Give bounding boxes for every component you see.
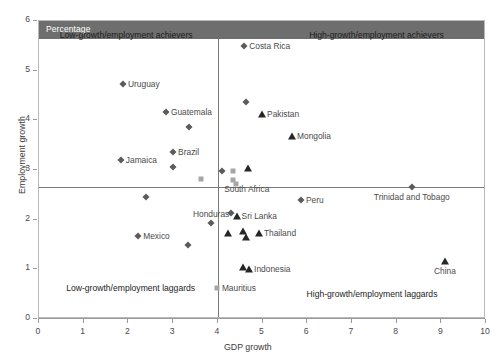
x-tick-mark (262, 319, 263, 323)
data-point-marker (162, 109, 169, 116)
data-point-marker (242, 234, 250, 241)
data-point-marker (241, 43, 248, 50)
x-tick-mark (440, 319, 441, 323)
data-point-marker (170, 148, 177, 155)
data-point-marker (258, 110, 266, 117)
x-tick-label: 8 (376, 326, 416, 336)
data-point-marker (244, 165, 252, 172)
data-point-marker (135, 232, 142, 239)
x-tick-label: 2 (107, 326, 147, 336)
x-tick-label: 0 (18, 326, 58, 336)
x-axis-title: GDP growth (224, 342, 272, 352)
y-tick-mark (33, 20, 37, 21)
data-point-marker (184, 241, 191, 248)
x-tick-label: 7 (331, 326, 371, 336)
data-point-label: Costa Rica (249, 41, 290, 51)
y-tick-mark (33, 169, 37, 170)
x-tick-label: 10 (465, 326, 504, 336)
quadrant-label-0: Low-growth/employment achievers (60, 30, 193, 40)
x-tick-mark (127, 319, 128, 323)
x-tick-label: 3 (152, 326, 192, 336)
data-point-marker (224, 230, 232, 237)
x-tick-label: 6 (286, 326, 326, 336)
data-point-marker (245, 266, 253, 273)
y-tick-label: 5 (10, 64, 30, 74)
x-tick-mark (83, 319, 84, 323)
data-point-label: Peru (306, 195, 324, 205)
data-point-marker (242, 99, 249, 106)
data-point-label: Honduras (193, 209, 229, 219)
data-point-label: Trinidad and Tobago (374, 192, 450, 202)
y-tick-label: 6 (10, 14, 30, 24)
y-tick-mark (33, 219, 37, 220)
data-point-marker (119, 80, 126, 87)
y-tick-mark (33, 119, 37, 120)
scatter-chart: Percentage Low-growth/employment achieve… (0, 0, 504, 360)
data-point-label: Pakistan (267, 109, 299, 119)
data-point-label: Mongolia (297, 131, 331, 141)
x-tick-label: 1 (63, 326, 103, 336)
x-tick-label: 4 (197, 326, 237, 336)
data-point-marker (170, 163, 177, 170)
x-tick-mark (351, 319, 352, 323)
y-tick-mark (33, 318, 37, 319)
data-point-label: China (434, 266, 456, 276)
x-tick-mark (217, 319, 218, 323)
data-point-label: Brazil (178, 147, 199, 157)
data-point-marker (288, 133, 296, 140)
data-point-label: Thailand (264, 228, 296, 238)
x-tick-mark (306, 319, 307, 323)
data-point-marker (255, 230, 263, 237)
y-tick-mark (33, 70, 37, 71)
x-tick-mark (38, 319, 39, 323)
plot-area: Percentage Low-growth/employment achieve… (38, 20, 485, 318)
data-point-label: South Africa (224, 184, 269, 194)
data-point-label: Mexico (143, 231, 170, 241)
y-tick-label: 0 (10, 312, 30, 322)
data-point-label: Sri Lanka (242, 211, 277, 221)
data-point-marker (408, 184, 415, 191)
data-point-marker (219, 168, 226, 175)
vertical-reference-line (218, 39, 219, 317)
data-point-marker (186, 123, 193, 130)
x-tick-label: 9 (420, 326, 460, 336)
y-axis-title: Employment growth (17, 95, 27, 215)
x-tick-mark (396, 319, 397, 323)
data-point-marker (143, 194, 150, 201)
x-tick-mark (172, 319, 173, 323)
x-tick-mark (485, 319, 486, 323)
quadrant-label-3: High-growth/employment laggards (307, 289, 438, 299)
quadrant-label-1: High-growth/employment achievers (309, 30, 444, 40)
data-point-label: Guatemala (171, 107, 212, 117)
data-point-marker (441, 258, 449, 265)
quadrant-label-2: Low-growth/employment laggards (66, 283, 195, 293)
data-point-marker (214, 286, 219, 291)
data-point-label: Mauritius (222, 283, 256, 293)
x-tick-label: 5 (242, 326, 282, 336)
data-point-label: Indonesia (254, 264, 290, 274)
data-point-marker (117, 156, 124, 163)
data-point-marker (230, 169, 235, 174)
y-tick-label: 1 (10, 262, 30, 272)
data-point-marker (208, 220, 215, 227)
data-point-marker (297, 196, 304, 203)
data-point-marker (198, 176, 203, 181)
y-tick-mark (33, 268, 37, 269)
data-point-label: Uruguay (128, 79, 160, 89)
data-point-label: Jamaica (126, 155, 157, 165)
